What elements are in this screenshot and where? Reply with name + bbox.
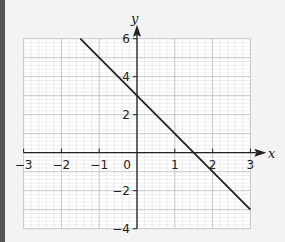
y-tick-label: −2 (112, 184, 130, 198)
y-tick-label: −4 (112, 222, 130, 236)
x-axis-label: x (268, 146, 276, 161)
x-tick-label: −2 (53, 158, 71, 172)
x-tick-label: 0 (123, 158, 131, 172)
x-tick-label: −3 (15, 158, 33, 172)
x-tick-label: 1 (171, 158, 179, 172)
y-axis-label: y (130, 11, 139, 26)
x-tick-label: −1 (90, 158, 108, 172)
x-tick-label: 3 (247, 158, 255, 172)
y-tick-label: 6 (122, 32, 130, 46)
y-tick-label: 2 (122, 108, 130, 122)
chart: −3−2−10123642−2−4 x y (0, 0, 285, 242)
